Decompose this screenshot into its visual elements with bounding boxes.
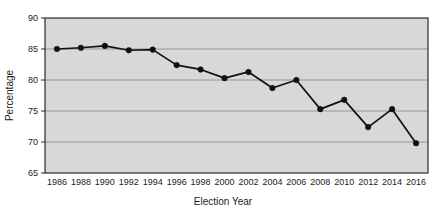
x-tick-label: 2016 xyxy=(406,177,426,187)
y-tick-label: 70 xyxy=(28,137,38,147)
data-point xyxy=(413,140,419,146)
chart-canvas: 657075808590 Percentage 1986198819901992… xyxy=(0,0,446,215)
plot-area xyxy=(45,18,428,173)
x-tick-label: 1990 xyxy=(95,177,115,187)
x-tick-label: 2000 xyxy=(215,177,235,187)
y-tick-label: 90 xyxy=(28,13,38,23)
x-tick-label: 2006 xyxy=(286,177,306,187)
y-axis-title: Percentage xyxy=(4,69,15,121)
x-tick-label: 2014 xyxy=(382,177,402,187)
data-point xyxy=(341,97,347,103)
data-point xyxy=(78,45,84,51)
x-tick-label: 2012 xyxy=(358,177,378,187)
data-point xyxy=(389,106,395,112)
data-point xyxy=(222,75,228,81)
x-tick-label: 1986 xyxy=(47,177,67,187)
x-tick-label: 1996 xyxy=(167,177,187,187)
x-axis-title: Election Year xyxy=(194,196,253,207)
data-point xyxy=(54,46,60,52)
x-tick-label: 2010 xyxy=(334,177,354,187)
x-tick-label: 1988 xyxy=(71,177,91,187)
data-point xyxy=(102,43,108,49)
x-tick-label: 1992 xyxy=(119,177,139,187)
x-tick-label: 1998 xyxy=(191,177,211,187)
data-point xyxy=(317,106,323,112)
x-tick-label: 1994 xyxy=(143,177,163,187)
data-point xyxy=(150,47,156,53)
y-tick-label: 80 xyxy=(28,75,38,85)
x-tick-label: 2004 xyxy=(262,177,282,187)
y-tick-label: 85 xyxy=(28,44,38,54)
y-tick-label: 75 xyxy=(28,106,38,116)
line-chart-figure: 657075808590 Percentage 1986198819901992… xyxy=(0,0,446,215)
data-point xyxy=(365,124,371,130)
x-tick-label: 2008 xyxy=(310,177,330,187)
data-point xyxy=(126,47,132,53)
data-point xyxy=(198,67,204,73)
y-tick-label: 65 xyxy=(28,168,38,178)
plot-background xyxy=(45,18,428,173)
data-point xyxy=(294,77,300,83)
data-point xyxy=(270,85,276,91)
x-tick-label: 2002 xyxy=(238,177,258,187)
data-point xyxy=(246,69,252,75)
data-point xyxy=(174,62,180,68)
